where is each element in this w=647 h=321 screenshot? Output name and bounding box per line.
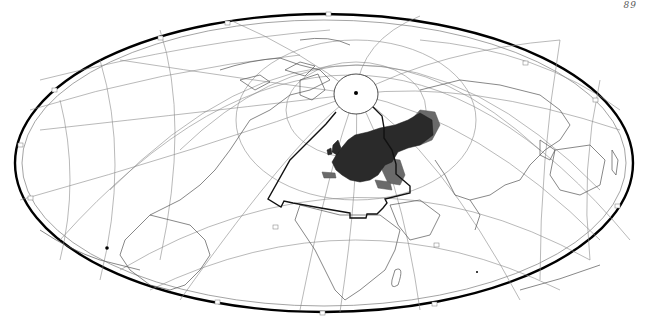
north-pole-dot <box>354 91 358 95</box>
asia-coast <box>420 80 570 200</box>
africa-coast <box>295 205 400 300</box>
australia-coast <box>550 145 605 195</box>
species-range <box>322 110 440 190</box>
north-america-coast <box>150 58 330 215</box>
ocean-dot <box>476 271 478 273</box>
world-map <box>0 0 647 321</box>
south-marker-dot <box>105 246 109 250</box>
range-peripheral-iberia <box>322 172 336 178</box>
arabia-coast <box>390 200 440 240</box>
south-america-coast <box>120 215 210 290</box>
